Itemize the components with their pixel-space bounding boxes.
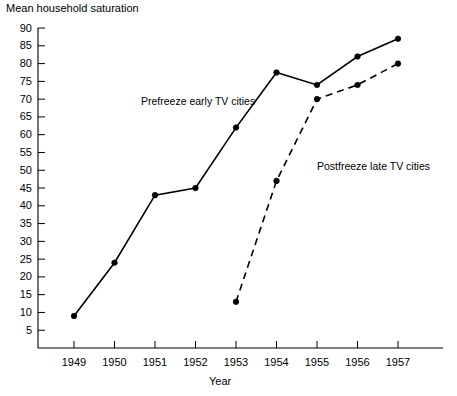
data-point [152, 192, 158, 198]
data-point [112, 260, 118, 266]
data-point [274, 178, 280, 184]
data-point [193, 185, 199, 191]
data-point [395, 61, 401, 67]
data-point [233, 125, 239, 131]
data-point [314, 96, 320, 102]
data-point [355, 54, 361, 60]
data-point [395, 36, 401, 42]
data-point [314, 82, 320, 88]
data-point [233, 299, 239, 305]
data-point [274, 70, 280, 76]
data-point [71, 313, 77, 319]
chart-figure: Mean household saturation 90858075706560… [0, 0, 457, 396]
data-point [355, 82, 361, 88]
plot-area [0, 0, 457, 396]
series-line-prefreeze [74, 39, 398, 316]
